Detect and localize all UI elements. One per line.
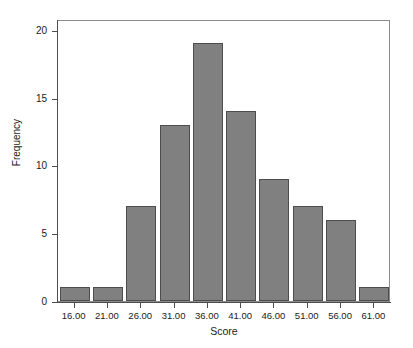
x-axis-tick-mark: [340, 303, 341, 308]
x-axis-tick-mark: [373, 303, 374, 308]
histogram-bar: [193, 43, 223, 301]
y-axis-tick-mark: [52, 31, 57, 32]
histogram-figure: 05101520 16.0021.0026.0031.0036.0041.004…: [0, 0, 413, 348]
histogram-bar: [226, 111, 256, 301]
y-axis-tick-mark: [52, 302, 57, 303]
x-axis-tick-mark: [307, 303, 308, 308]
x-axis-tick-mark: [273, 303, 274, 308]
x-axis-tick-mark: [74, 303, 75, 308]
histogram-bar: [93, 287, 123, 301]
y-axis-line: [57, 20, 58, 303]
y-axis-tick-mark: [52, 234, 57, 235]
y-axis-tick-label: 20: [7, 26, 47, 36]
x-axis-tick-mark: [174, 303, 175, 308]
y-axis-tick-label: 0: [7, 297, 47, 307]
histogram-bar: [160, 125, 190, 301]
x-axis-tick-label: 61.00: [353, 310, 393, 321]
histogram-bar: [259, 179, 289, 301]
plot-area: [58, 21, 389, 301]
x-axis-title: Score: [57, 325, 391, 337]
x-axis-tick-mark: [140, 303, 141, 308]
y-axis-tick-label: 5: [7, 229, 47, 239]
histogram-bar: [60, 287, 90, 301]
x-axis-tick-mark: [207, 303, 208, 308]
y-axis-tick-mark: [52, 99, 57, 100]
histogram-bar: [359, 287, 389, 301]
histogram-bar: [293, 206, 323, 301]
histogram-bar: [126, 206, 156, 301]
x-axis-tick-mark: [240, 303, 241, 308]
y-axis-title: Frequency: [11, 103, 22, 183]
plot-frame: [57, 20, 390, 302]
y-axis-tick-mark: [52, 166, 57, 167]
histogram-bar: [326, 220, 356, 301]
x-axis-tick-mark: [107, 303, 108, 308]
